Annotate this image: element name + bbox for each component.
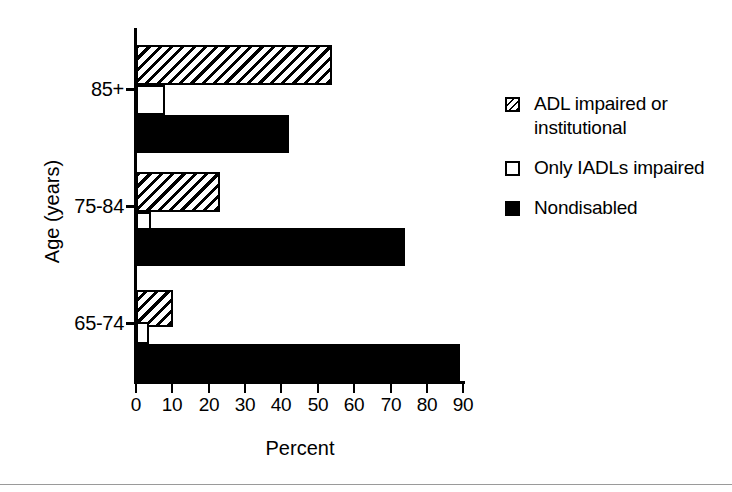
x-axis-line <box>134 381 465 384</box>
x-axis-tick-90 <box>462 384 464 393</box>
x-axis-tick-80 <box>426 384 428 393</box>
x-axis-tick-50 <box>317 384 319 393</box>
bar-85plus-adl-impaired <box>136 45 332 85</box>
x-axis-label-60: 60 <box>334 394 374 416</box>
legend-item-adl-impaired: ADL impaired or institutional <box>505 92 720 140</box>
x-axis-label-70: 70 <box>371 394 411 416</box>
y-category-label-85plus: 85+ <box>14 78 124 101</box>
x-axis-title: Percent <box>0 437 600 460</box>
bar-85plus-only-iadls <box>136 85 165 115</box>
x-axis-tick-10 <box>171 384 173 393</box>
legend-swatch-solid-icon <box>505 201 520 216</box>
legend-label-only-iadls: Only IADLs impaired <box>534 156 704 180</box>
bar-75-84-adl-impaired <box>136 172 220 212</box>
x-axis-label-30: 30 <box>225 394 265 416</box>
x-axis-label-40: 40 <box>261 394 301 416</box>
legend-item-nondisabled: Nondisabled <box>505 196 720 220</box>
x-axis-tick-70 <box>390 384 392 393</box>
x-axis-tick-60 <box>353 384 355 393</box>
chart-figure: 85+ 75-84 65-74 Age (years) 0 10 20 30 4… <box>0 0 732 492</box>
x-axis-label-50: 50 <box>298 394 338 416</box>
legend-label-adl-impaired: ADL impaired or institutional <box>534 92 720 140</box>
bar-65-74-only-iadls <box>136 322 149 344</box>
chart-legend: ADL impaired or institutional Only IADLs… <box>505 92 720 236</box>
x-axis-label-80: 80 <box>407 394 447 416</box>
x-axis-label-90: 90 <box>443 394 483 416</box>
legend-item-only-iadls: Only IADLs impaired <box>505 156 720 180</box>
x-axis-tick-30 <box>244 384 246 393</box>
legend-label-nondisabled: Nondisabled <box>534 196 637 220</box>
legend-swatch-open-icon <box>505 161 520 176</box>
y-axis-tick-85plus <box>126 88 136 91</box>
x-axis-label-0: 0 <box>116 394 156 416</box>
bar-65-74-nondisabled <box>136 344 460 381</box>
y-category-label-75-84: 75-84 <box>14 195 124 218</box>
y-axis-title: Age (years) <box>41 112 64 312</box>
legend-swatch-hatched-icon <box>505 97 520 112</box>
y-category-label-65-74: 65-74 <box>14 312 124 335</box>
bar-75-84-nondisabled <box>136 228 405 266</box>
bar-85plus-nondisabled <box>136 115 289 153</box>
y-axis-tick-75-84 <box>126 205 136 208</box>
x-axis-label-20: 20 <box>189 394 229 416</box>
x-axis-tick-0 <box>135 384 137 393</box>
bottom-divider <box>0 484 732 485</box>
x-axis-label-10: 10 <box>152 394 192 416</box>
x-axis-tick-40 <box>280 384 282 393</box>
x-axis-tick-20 <box>208 384 210 393</box>
y-axis-tick-65-74 <box>126 322 136 325</box>
